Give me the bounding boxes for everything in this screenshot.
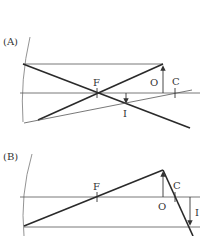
diagram-a: (A) F O C I — [3, 36, 200, 128]
focal-label: F — [93, 181, 100, 192]
diagram-b-label: (B) — [3, 151, 18, 162]
mirror-arc — [22, 37, 30, 122]
focal-label: F — [93, 77, 100, 88]
mirror-ray-diagrams: (A) F O C I (B) — [0, 0, 213, 236]
focal-ray — [24, 170, 163, 226]
image-label: I — [195, 207, 199, 218]
object-label: O — [150, 77, 158, 88]
center-label: C — [172, 76, 180, 87]
focal-ray — [38, 64, 163, 120]
reflected-ray-2 — [24, 90, 192, 123]
center-label: C — [173, 180, 181, 191]
image-label: I — [123, 108, 127, 119]
diagram-b: (B) F O C I — [3, 151, 200, 236]
object-label: O — [158, 201, 166, 212]
diagram-a-label: (A) — [3, 36, 18, 47]
